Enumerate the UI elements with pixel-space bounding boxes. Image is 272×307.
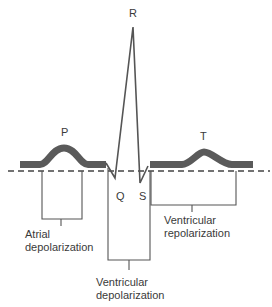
qrs-complex bbox=[106, 27, 148, 183]
ecg-diagram bbox=[0, 0, 272, 307]
t-label: T bbox=[200, 130, 207, 143]
s-label: S bbox=[139, 190, 146, 203]
p-wave bbox=[20, 148, 106, 165]
r-label: R bbox=[129, 7, 137, 20]
q-label: Q bbox=[116, 190, 125, 203]
p-label: P bbox=[61, 126, 68, 139]
ventricular-repolarization-label: Ventricular repolarization bbox=[164, 214, 230, 240]
atrial-label: Atrial depolarization bbox=[25, 228, 94, 254]
t-wave bbox=[150, 152, 253, 165]
ventricular-repolarization-bracket bbox=[151, 171, 236, 212]
ventricular-depolarization-bracket bbox=[108, 168, 150, 270]
atrial-bracket bbox=[42, 171, 82, 226]
ventricular-depolarization-label: Ventricular depolarization bbox=[96, 276, 165, 302]
